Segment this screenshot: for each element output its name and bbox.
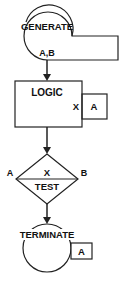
logic-block: LOGIC X A (15, 81, 107, 127)
test-block: X TEST A B (7, 154, 88, 204)
logic-mode: X (73, 101, 80, 112)
test-label: TEST (35, 181, 59, 192)
block-diagram: GENERATE A,B LOGIC X A X TEST A B TERMI (0, 0, 122, 286)
arrow-test-to-terminate (43, 204, 51, 224)
test-right-operand: B (81, 168, 88, 178)
terminate-operand: A (78, 246, 85, 257)
logic-operand: A (91, 101, 98, 112)
test-left-operand: A (7, 168, 14, 178)
generate-block: GENERATE A,B (21, 5, 118, 60)
terminate-label: TERMINATE (20, 229, 75, 240)
arrow-logic-to-test (43, 127, 51, 154)
test-mode: X (44, 167, 51, 178)
arrow-generate-to-logic (43, 60, 51, 81)
terminate-block: TERMINATE A (20, 224, 92, 272)
generate-operands: A,B (39, 48, 55, 58)
logic-label: LOGIC (31, 87, 63, 98)
generate-label: GENERATE (21, 21, 73, 32)
